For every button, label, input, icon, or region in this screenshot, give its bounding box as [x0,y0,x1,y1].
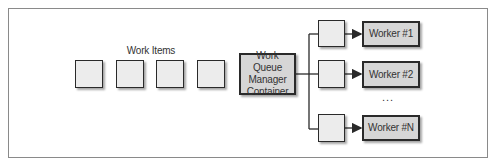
work-item-3 [156,60,184,88]
work-item-4 [197,60,225,88]
work-queue-manager: Work Queue Manager Container [239,53,296,95]
work-items-label: Work Items [120,45,182,56]
worker-2: Worker #2 [362,61,420,88]
worker-1: Worker #1 [362,21,420,47]
work-item-2 [116,60,144,88]
worker-1-label: Worker #1 [364,23,418,45]
queue-box-2 [318,60,345,88]
work-item-1 [75,60,103,88]
queue-box-1 [318,20,345,47]
worker-n-label: Worker #N [364,117,418,139]
ellipsis: ... [376,91,400,103]
worker-n: Worker #N [362,115,420,141]
worker-2-label: Worker #2 [364,63,418,86]
queue-box-n [318,114,345,142]
manager-label: Work Queue Manager Container [241,55,294,93]
